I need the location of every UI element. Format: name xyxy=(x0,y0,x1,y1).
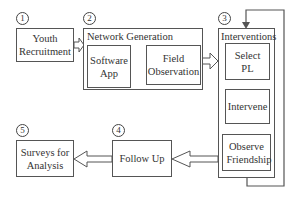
substep-label: Software App xyxy=(88,54,130,80)
step-youth-recruitment: Youth Recruitment xyxy=(16,28,74,62)
substep-label: Field Observation xyxy=(147,52,200,78)
step-label: Follow Up xyxy=(119,152,164,165)
substep-label: Intervene xyxy=(228,100,268,113)
substep-intervene: Intervene xyxy=(225,89,270,124)
arrow-2-to-3 xyxy=(202,53,218,69)
arrow-4-to-5 xyxy=(74,151,112,167)
arrow-3-to-4 xyxy=(172,151,218,167)
substep-label: Select PL xyxy=(233,49,263,75)
substep-label: Observe Friendship xyxy=(227,140,267,166)
step-number-1: 1 xyxy=(16,12,29,25)
substep-software-app: Software App xyxy=(87,45,131,88)
group-title: Network Generation xyxy=(87,31,173,42)
step-label: Youth Recruitment xyxy=(17,32,73,58)
step-surveys-for-analysis: Surveys for Analysis xyxy=(16,140,74,177)
substep-observe-friendship: Observe Friendship xyxy=(222,134,271,171)
substep-select-pl: Select PL xyxy=(225,43,270,80)
step-number-2: 2 xyxy=(83,12,96,25)
step-number-3: 3 xyxy=(218,12,231,25)
step-follow-up: Follow Up xyxy=(112,140,172,177)
step-number-5: 5 xyxy=(16,124,29,137)
step-number-4: 4 xyxy=(112,124,125,137)
group-title: Interventions xyxy=(221,31,276,42)
step-label: Surveys for Analysis xyxy=(17,146,73,172)
substep-field-observation: Field Observation xyxy=(146,45,201,85)
